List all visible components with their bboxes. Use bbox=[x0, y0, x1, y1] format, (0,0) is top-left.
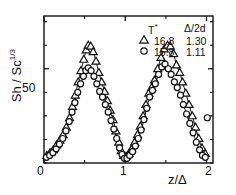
legend-value-tstar-2: 15.8 bbox=[154, 46, 174, 58]
legend-markers bbox=[140, 36, 149, 54]
series-markers bbox=[43, 41, 210, 161]
x-tick-label-0: 0 bbox=[37, 164, 44, 178]
x-tick-label-1: 1 bbox=[120, 164, 127, 178]
legend-header-tstar: T* bbox=[148, 22, 158, 36]
legend-value-delta2d-2: 1.11 bbox=[186, 46, 206, 58]
y-tick-label-50: 50 bbox=[22, 81, 35, 95]
legend-header-delta2d: Δ/2d bbox=[184, 22, 206, 34]
figure-container: Sh / Sc1/3 z/Δ 50 0 1 2 T* Δ/2d 16.8 1.3… bbox=[0, 0, 236, 195]
x-tick-label-2: 2 bbox=[205, 164, 212, 178]
x-axis-label: z/Δ bbox=[168, 172, 187, 187]
y-axis-label: Sh / Sc1/3 bbox=[8, 40, 23, 112]
